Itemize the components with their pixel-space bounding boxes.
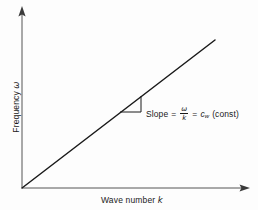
slope-annotation-equals-1: = [171,109,176,119]
slope-fraction: ω k [180,106,188,122]
slope-symbol-subscript: w [205,113,209,119]
y-axis-symbol: ω [11,81,21,88]
slope-annotation-equals-2: = [192,109,197,119]
slope-annotation-qualifier: (const) [212,109,239,119]
plot-canvas [0,0,258,210]
y-axis-label-inner: Frequency ω [11,81,21,132]
slope-annotation-label: Slope [146,109,168,119]
slope-annotation: Slope = ω k = cw (const) [146,106,239,122]
slope-fraction-numerator: ω [180,106,188,114]
dispersion-relation-figure: Wave number k Frequency ω Slope = ω k = … [0,0,258,210]
x-axis-label-text: Wave number [101,195,155,205]
y-axis-label: Frequency ω [5,52,17,162]
slope-fraction-denominator: k [181,114,187,122]
x-axis-label: Wave number k [101,195,163,205]
x-axis-symbol: k [158,195,163,205]
y-axis-label-text: Frequency [11,91,21,133]
